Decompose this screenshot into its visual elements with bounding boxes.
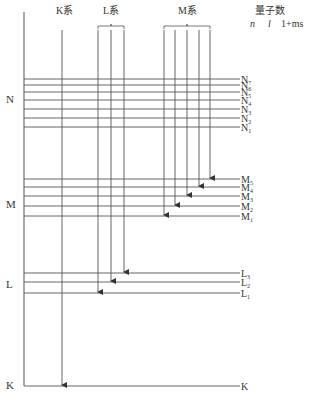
- quantum-ms-label: 1+ms: [281, 18, 303, 29]
- m-series-label: M系: [178, 5, 197, 16]
- energy-level-diagram: K系 L系 M系 量子数 n l 1+ms NN7N6N5N4N3N2N1MM5…: [0, 0, 312, 400]
- l-series-bracket: [98, 24, 124, 29]
- labels: K系 L系 M系 量子数 n l 1+ms NN7N6N5N4N3N2N1MM5…: [6, 4, 303, 392]
- shell-label-k: K: [6, 379, 14, 391]
- quantum-l-label: l: [268, 18, 271, 29]
- m-series-bracket: [164, 24, 210, 29]
- shell-label-m: M: [6, 198, 16, 210]
- energy-levels: [24, 79, 240, 386]
- shell-label-n: N: [6, 93, 14, 105]
- energy-level-label: K: [241, 381, 249, 392]
- shell-label-l: L: [6, 278, 13, 290]
- l-series-label: L系: [103, 5, 119, 16]
- quantum-numbers-title: 量子数: [255, 4, 285, 16]
- transition-arrows: [62, 30, 210, 385]
- series-brackets: [98, 24, 210, 29]
- energy-level-label: L1: [241, 288, 250, 300]
- k-series-label: K系: [56, 5, 73, 16]
- quantum-n-label: n: [250, 18, 255, 29]
